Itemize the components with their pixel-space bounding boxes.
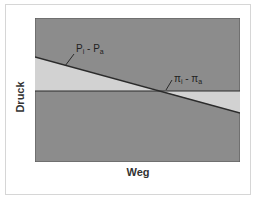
hydrostatic-label: Pi - Pa — [76, 43, 104, 55]
y-axis-label: Druck — [14, 77, 28, 117]
pressure-diagram-svg — [35, 18, 240, 162]
oncotic-label: πi - πa — [174, 73, 202, 85]
x-axis-label: Weg — [118, 166, 158, 178]
plot-area — [35, 18, 240, 162]
